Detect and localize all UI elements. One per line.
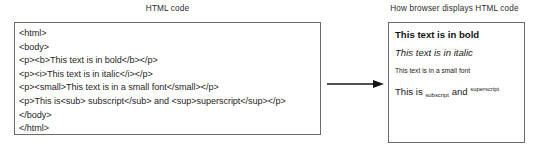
html-code-vs-browser-render-figure: HTML code How browser displays HTML code… [0,0,539,153]
code-line: <html> [19,27,320,41]
code-line: </html> [19,122,320,135]
rendered-small-text: This text is in a small font [395,67,518,75]
arrow-right-icon [327,78,385,90]
code-line: <p><i>This text is in italic</i></p> [19,68,320,82]
rendered-bold-text: This text is in bold [395,29,518,40]
code-line: </body> [19,109,320,123]
subscript-text: subscript [425,92,449,98]
rendered-subsup-text: This is subscript and superscript [395,83,518,101]
rendered-italic-text: This text is in italic [395,47,518,58]
html-code-box: <html> <body> <p><b>This text is in bold… [14,22,321,135]
subsup-middle-text: and [452,86,468,97]
browser-render-box: This text is in bold This text is in ita… [388,22,525,143]
subsup-lead-text: This is [395,86,423,97]
browser-panel-caption: How browser displays HTML code [372,4,537,13]
code-line: <body> [19,41,320,55]
code-line: <p><small>This text is in a small font</… [19,81,320,95]
code-line: <p>This is<sub> subscript</sub> and <sup… [19,95,320,109]
code-panel-caption: HTML code [0,4,335,13]
code-line: <p><b>This text is in bold</b></p> [19,54,320,68]
superscript-text: superscript [470,86,499,92]
